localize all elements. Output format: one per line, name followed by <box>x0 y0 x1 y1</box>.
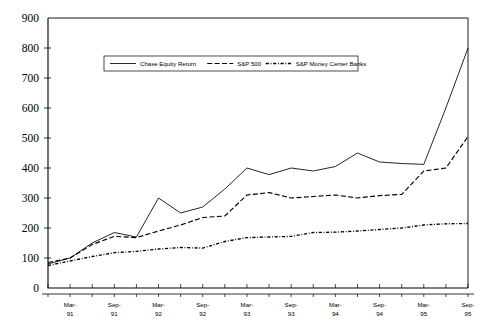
y-axis-label: 300 <box>22 192 40 204</box>
x-axis-label: 94 <box>376 310 383 317</box>
x-axis-label: Sep- <box>461 301 474 308</box>
x-axis-label: Mar- <box>241 301 254 308</box>
x-axis-label: Mar- <box>417 301 430 308</box>
y-axis-label: 600 <box>22 102 40 114</box>
legend-label-1: S&P 500 <box>237 60 262 67</box>
y-axis-label: 100 <box>22 252 40 264</box>
x-axis-label: 91 <box>111 310 118 317</box>
x-axis-label: Mar- <box>152 301 165 308</box>
x-axis-label: 92 <box>155 310 162 317</box>
y-axis-label: 500 <box>22 132 40 144</box>
x-axis-label: Sep- <box>108 301 121 308</box>
x-axis-label: Sep- <box>373 301 386 308</box>
x-axis-label: 93 <box>244 310 251 317</box>
y-axis-label: 400 <box>22 162 40 174</box>
x-axis-label: Mar- <box>64 301 77 308</box>
x-axis-label: Mar- <box>329 301 342 308</box>
x-axis-label: 91 <box>67 310 74 317</box>
series-line-chase-equity-return <box>48 48 468 264</box>
x-axis-label: Sep- <box>196 301 209 308</box>
x-axis-label: 95 <box>420 310 427 317</box>
line-chart: 0100200300400500600700800900Mar-91Sep-91… <box>0 0 486 327</box>
series-line-sp-money-center-banks <box>48 224 468 266</box>
x-axis-label: 94 <box>332 310 339 317</box>
x-axis-label: Sep- <box>285 301 298 308</box>
y-axis-label: 800 <box>22 42 40 54</box>
y-axis-label: 200 <box>22 222 40 234</box>
y-axis-label: 0 <box>33 282 39 294</box>
legend-label-2: S&P Money Center Banks <box>296 60 367 67</box>
x-axis-label: 93 <box>288 310 295 317</box>
x-axis-label: 95 <box>465 310 472 317</box>
y-axis-label: 900 <box>22 12 40 24</box>
series-line-sp-500 <box>48 137 468 263</box>
x-axis-label: 92 <box>199 310 206 317</box>
chart-canvas: 0100200300400500600700800900Mar-91Sep-91… <box>0 0 486 327</box>
legend-label-0: Chase Equity Return <box>140 60 196 67</box>
y-axis-label: 700 <box>22 72 40 84</box>
